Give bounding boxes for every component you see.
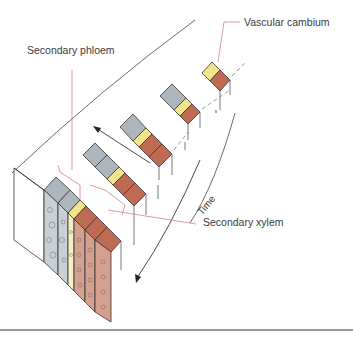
time-arrow: [137, 160, 200, 278]
stage-3-block: [120, 114, 188, 180]
label-secondary-phloem: Secondary phloem: [27, 44, 115, 56]
bottom-divider: [0, 329, 353, 331]
label-vascular-cambium: Vascular cambium: [244, 16, 330, 28]
stage-2-block: [160, 84, 230, 140]
arrow-head-up: [93, 126, 101, 133]
stage-1-block: [202, 62, 245, 110]
stage-5-block: [14, 168, 121, 322]
label-secondary-xylem: Secondary xylem: [203, 216, 284, 228]
time-arrow-head: [135, 274, 141, 283]
